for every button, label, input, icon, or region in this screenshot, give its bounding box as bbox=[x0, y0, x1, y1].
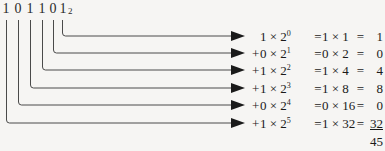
equation-row: 1 × 20 = 1 × 1 = 1 bbox=[252, 28, 385, 45]
equation-expression: 1 × 23 bbox=[260, 80, 317, 97]
connector-line-3 bbox=[31, 20, 232, 88]
equation-value: 4 bbox=[360, 62, 383, 79]
arrowhead-icon-2 bbox=[231, 65, 245, 75]
equation-value: 1 bbox=[360, 28, 383, 45]
equation-row: + 1 × 22 = 1 × 4 = 4 bbox=[252, 62, 385, 79]
equation-expression-base: 0 × 2 bbox=[260, 46, 287, 61]
connector-line-0 bbox=[63, 20, 232, 36]
connector-line-4 bbox=[19, 20, 232, 105]
equation-row: + 1 × 25 = 1 × 32 = 32 bbox=[252, 115, 385, 132]
equation-equals-first: = bbox=[314, 80, 322, 97]
equation-expression: 1 × 22 bbox=[260, 62, 317, 79]
equation-product: 1 × 4 bbox=[322, 62, 360, 79]
equation-product: 1 × 1 bbox=[322, 28, 360, 45]
equation-exponent: 4 bbox=[287, 98, 291, 107]
equation-exponent: 1 bbox=[287, 46, 291, 55]
connector-line-2 bbox=[43, 20, 232, 70]
equation-row: + 0 × 21 = 0 × 2 = 0 bbox=[252, 45, 385, 62]
equation-expression: 1 × 25 bbox=[260, 115, 317, 132]
equation-product: 1 × 8 bbox=[322, 80, 360, 97]
equation-exponent: 0 bbox=[287, 29, 291, 38]
equation-product: 1 × 32 bbox=[322, 115, 360, 132]
equation-exponent: 5 bbox=[287, 116, 291, 125]
equation-expression-base: 1 × 2 bbox=[260, 29, 287, 44]
arrowhead-icon-3 bbox=[231, 83, 245, 93]
equation-list: 1 × 20 = 1 × 1 = 1 + 0 × 21 = 0 × 2 = 0 … bbox=[252, 0, 385, 151]
total-row: 45 bbox=[252, 133, 385, 150]
equation-equals-first: = bbox=[314, 115, 322, 132]
arrowhead-icon-1 bbox=[231, 48, 245, 58]
equation-expression-base: 1 × 2 bbox=[260, 116, 287, 131]
equation-value: 32 bbox=[360, 115, 383, 132]
equation-expression-base: 0 × 2 bbox=[260, 98, 287, 113]
equation-equals-first: = bbox=[314, 45, 322, 62]
equation-value: 0 bbox=[360, 45, 383, 62]
equation-equals-first: = bbox=[314, 62, 322, 79]
equation-product: 0 × 16 bbox=[322, 97, 360, 114]
equation-row: + 1 × 23 = 1 × 8 = 8 bbox=[252, 80, 385, 97]
equation-expression: 0 × 21 bbox=[260, 45, 317, 62]
equation-equals-first: = bbox=[314, 97, 322, 114]
equation-value: 8 bbox=[360, 80, 383, 97]
equation-expression: 0 × 24 bbox=[260, 97, 317, 114]
equation-exponent: 3 bbox=[287, 81, 291, 90]
equation-product: 0 × 2 bbox=[322, 45, 360, 62]
arrowhead-icon-0 bbox=[231, 31, 245, 41]
connector-line-5 bbox=[7, 20, 232, 123]
equation-expression: 1 × 20 bbox=[260, 28, 317, 45]
equation-exponent: 2 bbox=[287, 63, 291, 72]
total-value: 45 bbox=[360, 133, 383, 150]
arrowhead-icon-4 bbox=[231, 100, 245, 110]
binary-conversion-diagram: 1 0 1 1 0 1 2 1 × 20 = 1 × 1 bbox=[0, 0, 385, 151]
equation-expression-base: 1 × 2 bbox=[260, 81, 287, 96]
equation-row: + 0 × 24 = 0 × 16 = 0 bbox=[252, 97, 385, 114]
equation-value: 0 bbox=[360, 97, 383, 114]
equation-expression-base: 1 × 2 bbox=[260, 63, 287, 78]
arrowhead-icon-5 bbox=[231, 118, 245, 128]
equation-equals-first: = bbox=[314, 28, 322, 45]
